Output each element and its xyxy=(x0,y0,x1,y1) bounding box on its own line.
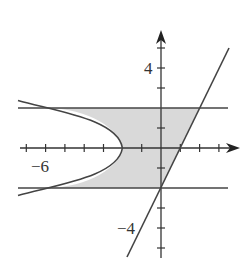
region-diagram: −6 4 −4 xyxy=(0,0,250,278)
y-tick-label-4: 4 xyxy=(144,59,153,78)
x-tick-label-minus-6: −6 xyxy=(31,157,49,176)
y-tick-label-minus-4: −4 xyxy=(117,219,136,238)
